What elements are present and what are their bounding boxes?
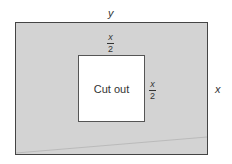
cutout-label: Cut out bbox=[94, 83, 129, 95]
cutout-square: Cut out bbox=[78, 55, 145, 122]
fraction-top-x-over-2: x 2 bbox=[107, 33, 114, 54]
fraction-side-x-over-2: x 2 bbox=[149, 80, 156, 101]
label-height-x: x bbox=[215, 84, 221, 95]
